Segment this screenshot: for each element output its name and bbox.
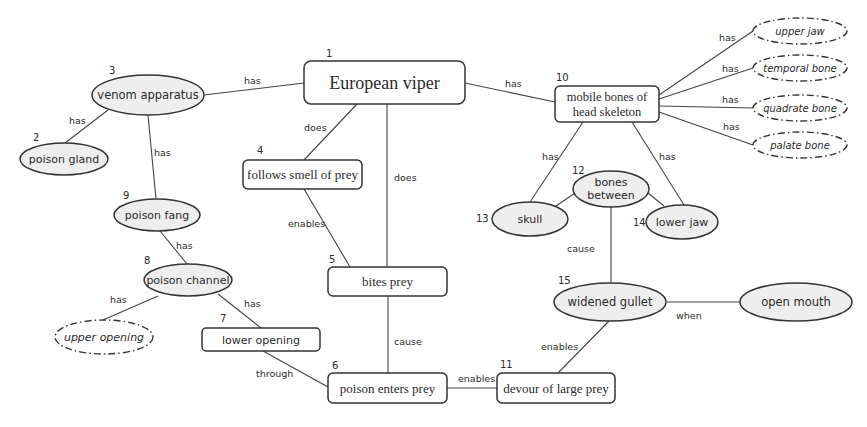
edge-label: has	[719, 32, 736, 43]
edge-label: has	[176, 240, 193, 251]
node-label: poison gland	[29, 153, 99, 166]
node-label: lower jaw	[656, 216, 708, 229]
node-label: upper jaw	[775, 26, 825, 37]
node-palate-bone[interactable]: palate bone	[753, 132, 847, 158]
edge-label: has	[154, 147, 171, 158]
node-mobile-bones-of-head-skeleton[interactable]: 10 mobile bones of head skeleton	[555, 72, 659, 122]
node-label: poison fang	[125, 209, 189, 222]
node-widened-gullet[interactable]: 15 widened gullet	[554, 275, 666, 321]
edge-label: has	[244, 75, 261, 86]
node-bones-between[interactable]: 12 bones between	[572, 165, 649, 207]
node-quadrate-bone[interactable]: quadrate bone	[753, 95, 847, 121]
concept-map: has has has does does has enables has ha…	[0, 0, 867, 427]
node-number: 14	[633, 217, 646, 228]
node-venom-apparatus[interactable]: 3 venom apparatus	[92, 65, 204, 115]
node-skull[interactable]: 13 skull	[476, 202, 568, 236]
node-number: 12	[572, 165, 585, 176]
edge-label: when	[676, 310, 702, 321]
node-number: 6	[332, 360, 338, 371]
edge-label: has	[542, 151, 559, 162]
node-label: poison enters prey	[340, 381, 436, 396]
node-label: follows smell of prey	[247, 167, 358, 182]
edge-label: has	[659, 151, 676, 162]
node-number: 2	[33, 132, 39, 143]
node-label-line2: head skeleton	[573, 105, 642, 119]
node-number: 4	[257, 145, 263, 156]
node-upper-opening[interactable]: upper opening	[55, 320, 153, 354]
edge-label: has	[69, 115, 86, 126]
node-label: temporal bone	[763, 63, 836, 74]
edge-label: does	[394, 172, 417, 183]
edge-label: does	[304, 122, 327, 133]
edge-between-lowerjaw	[648, 193, 664, 206]
node-poison-fang[interactable]: 9 poison fang	[114, 190, 200, 231]
node-number: 3	[109, 65, 115, 76]
edge-label: has	[722, 63, 739, 74]
node-label: bites prey	[362, 274, 413, 289]
edge-mobile-upperjaw	[659, 31, 753, 95]
node-label: skull	[518, 213, 543, 226]
node-label: widened gullet	[568, 295, 653, 309]
edge-label: cause	[394, 336, 422, 347]
node-label: upper opening	[64, 331, 144, 344]
node-number: 11	[500, 359, 513, 370]
node-open-mouth[interactable]: open mouth	[740, 283, 852, 321]
node-number: 5	[329, 254, 335, 265]
node-label: poison channel	[146, 274, 229, 287]
edge-label: has	[244, 298, 261, 309]
node-number: 7	[220, 313, 226, 324]
node-label-line1: mobile bones of	[567, 90, 648, 104]
edge-mobile-quadrate	[659, 106, 753, 108]
node-temporal-bone[interactable]: temporal bone	[753, 55, 847, 81]
node-number: 15	[558, 275, 571, 286]
edge-label: through	[256, 368, 293, 379]
node-devour-of-large-prey[interactable]: 11 devour of large prey	[497, 359, 615, 403]
node-follows-smell-of-prey[interactable]: 4 follows smell of prey	[243, 145, 362, 189]
node-label-line2: between	[587, 189, 635, 202]
node-number: 1	[326, 48, 332, 59]
node-label: devour of large prey	[503, 381, 609, 396]
edge-label: has	[722, 94, 739, 105]
node-label: open mouth	[761, 295, 831, 309]
node-number: 13	[476, 213, 489, 224]
edge-label: has	[110, 294, 127, 305]
node-number: 10	[556, 72, 569, 83]
edge-label: enables	[541, 341, 578, 352]
edge-mobile-temporal	[659, 68, 753, 99]
node-label: European viper	[329, 73, 439, 93]
edge-label: has	[505, 78, 522, 89]
node-label-line1: bones	[594, 176, 627, 189]
edge-label: has	[723, 121, 740, 132]
node-lower-jaw[interactable]: 14 lower jaw	[633, 205, 718, 239]
edge-label: cause	[567, 243, 595, 254]
node-label: venom apparatus	[97, 88, 198, 102]
node-poison-gland[interactable]: 2 poison gland	[20, 132, 108, 175]
node-label: quadrate bone	[763, 103, 837, 114]
node-poison-channel[interactable]: 8 poison channel	[144, 255, 232, 296]
edge-between-skull	[556, 193, 575, 206]
node-lower-opening[interactable]: 7 lower opening	[202, 313, 320, 351]
node-label: lower opening	[222, 334, 300, 347]
node-upper-jaw[interactable]: upper jaw	[753, 18, 847, 44]
node-label: palate bone	[769, 140, 830, 151]
edge-label: enables	[288, 218, 325, 229]
node-european-viper[interactable]: 1 European viper	[304, 48, 465, 104]
node-number: 9	[123, 190, 129, 201]
node-number: 8	[144, 255, 150, 266]
edge-label: enables	[458, 373, 495, 384]
